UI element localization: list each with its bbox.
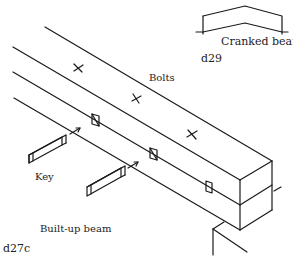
bolt-mark — [74, 64, 83, 72]
diagram-canvas: Cranked beam d29 Bolts Key Built-up beam… — [0, 0, 293, 263]
cranked-beam-drawing — [196, 6, 288, 34]
bolt-mark — [187, 130, 197, 139]
built-up-beam-id: d27c — [3, 243, 30, 254]
key-slot — [150, 148, 157, 160]
built-up-beam-caption: Built-up beam — [40, 224, 111, 234]
key-slot — [92, 114, 99, 126]
cranked-beam-id: d29 — [201, 53, 222, 64]
bolt-mark — [132, 94, 141, 103]
key-block — [29, 135, 66, 163]
built-up-beam-drawing — [13, 27, 281, 255]
bolts-label: Bolts — [149, 73, 175, 83]
key-block — [87, 166, 125, 196]
cranked-beam-caption: Cranked beam — [221, 36, 293, 47]
key-label: Key — [35, 172, 54, 182]
